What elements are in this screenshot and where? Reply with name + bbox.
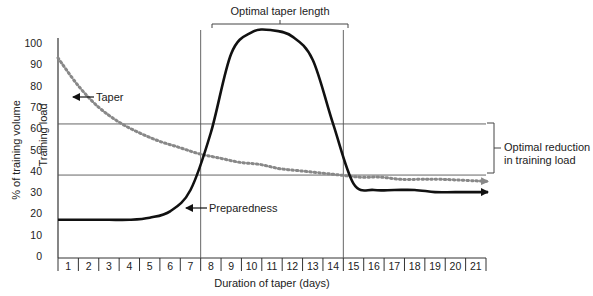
x-tick-label: 10	[246, 260, 258, 272]
x-axis-ticks: 123456789101112131415161718192021	[58, 258, 486, 272]
x-tick-label: 7	[188, 260, 194, 272]
y-axis-title-inner: Training load	[37, 103, 49, 166]
x-tick-label: 3	[106, 260, 112, 272]
y-tick-label: 10	[30, 229, 42, 241]
taper-chart: 123456789101112131415161718192021 010203…	[0, 0, 593, 296]
x-tick-label: 1	[65, 260, 71, 272]
x-tick-label: 8	[208, 260, 214, 272]
y-tick-label: 20	[30, 207, 42, 219]
bracket-right-label-2: in training load	[504, 154, 576, 166]
x-tick-label: 16	[368, 260, 380, 272]
optimal-reduction-bracket: Optimal reduction in training load	[487, 123, 590, 173]
x-tick-label: 20	[450, 260, 462, 272]
x-tick-label: 14	[327, 260, 339, 272]
y-tick-label: 80	[30, 80, 42, 92]
y-tick-label: 0	[36, 250, 42, 262]
y-tick-label: 90	[30, 58, 42, 70]
x-tick-label: 13	[307, 260, 319, 272]
axes	[58, 38, 486, 258]
optimal-taper-length-bracket: Optimal taper length	[212, 5, 348, 28]
x-tick-label: 6	[167, 260, 173, 272]
x-tick-label: 19	[429, 260, 441, 272]
preparedness-label: Preparedness	[209, 202, 278, 214]
taper-curve	[58, 58, 488, 181]
taper-label: Taper	[96, 91, 124, 103]
x-tick-label: 11	[267, 260, 278, 272]
taper-annotation: Taper	[73, 91, 124, 103]
y-tick-label: 100	[24, 37, 42, 49]
x-tick-label: 18	[409, 260, 421, 272]
x-tick-label: 2	[86, 260, 92, 272]
bracket-right-label-1: Optimal reduction	[504, 141, 590, 153]
y-tick-label: 30	[30, 186, 42, 198]
x-tick-label: 12	[287, 260, 299, 272]
x-tick-label: 4	[126, 260, 132, 272]
x-tick-label: 21	[470, 260, 482, 272]
x-axis-title: Duration of taper (days)	[214, 277, 330, 289]
bracket-top-label: Optimal taper length	[230, 5, 329, 17]
preparedness-annotation: Preparedness	[186, 202, 278, 214]
x-tick-label: 5	[147, 260, 153, 272]
x-tick-label: 15	[348, 260, 360, 272]
reference-lines	[58, 30, 486, 258]
x-tick-label: 9	[228, 260, 234, 272]
y-axis-title-outer: % of training volume	[10, 100, 22, 200]
x-tick-label: 17	[388, 260, 400, 272]
